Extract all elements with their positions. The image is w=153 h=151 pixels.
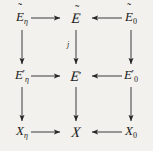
- node-letter: X: [71, 124, 82, 140]
- node-letter: X: [16, 123, 24, 138]
- node-E-tilde-eta: ˜ E η: [16, 10, 28, 26]
- node-scriptX: X: [72, 125, 81, 140]
- node-subscript: η: [24, 17, 28, 26]
- node-scriptE-tilde-base: ˜ E: [71, 11, 81, 26]
- node-scriptX-base: X: [71, 125, 81, 140]
- node-letter: E: [70, 68, 81, 84]
- tilde-accent-icon: ˜: [18, 3, 22, 15]
- node-E-tilde-0-base: ˜ E: [125, 10, 133, 23]
- node-letter: X: [125, 123, 133, 138]
- node-X-eta-base: X: [16, 124, 24, 137]
- node-subscript: 0: [133, 17, 137, 26]
- node-Eprime-eta: E ′η: [15, 68, 29, 84]
- node-E-tilde-eta-base: ˜ E: [16, 10, 24, 23]
- commutative-diagram: j ˜ E η ˜ E ˜ E 0 E ′η E ′ E ′0: [0, 0, 153, 151]
- node-Eprime-0-base: E: [124, 68, 132, 81]
- node-Eprime-0: E ′0: [124, 68, 138, 84]
- node-scriptE-tilde: ˜ E: [72, 11, 81, 26]
- node-Eprime-eta-base: E: [15, 68, 23, 81]
- node-scriptE-prime: E ′: [71, 69, 82, 84]
- node-X-eta: X η: [16, 124, 28, 140]
- arrow-label-j: j: [67, 41, 69, 49]
- node-letter: E: [124, 67, 132, 82]
- node-subscript: η: [24, 131, 28, 140]
- node-subscript: 0: [133, 131, 137, 140]
- node-subscript: 0: [134, 75, 138, 84]
- node-letter: E: [15, 67, 23, 82]
- node-X-0-base: X: [125, 124, 133, 137]
- node-E-tilde-0: ˜ E 0: [125, 10, 137, 26]
- node-X-0: X 0: [125, 124, 137, 140]
- node-subscript: η: [25, 75, 29, 84]
- node-scriptE-prime-base: E: [70, 69, 80, 84]
- tilde-accent-icon: ˜: [127, 3, 131, 15]
